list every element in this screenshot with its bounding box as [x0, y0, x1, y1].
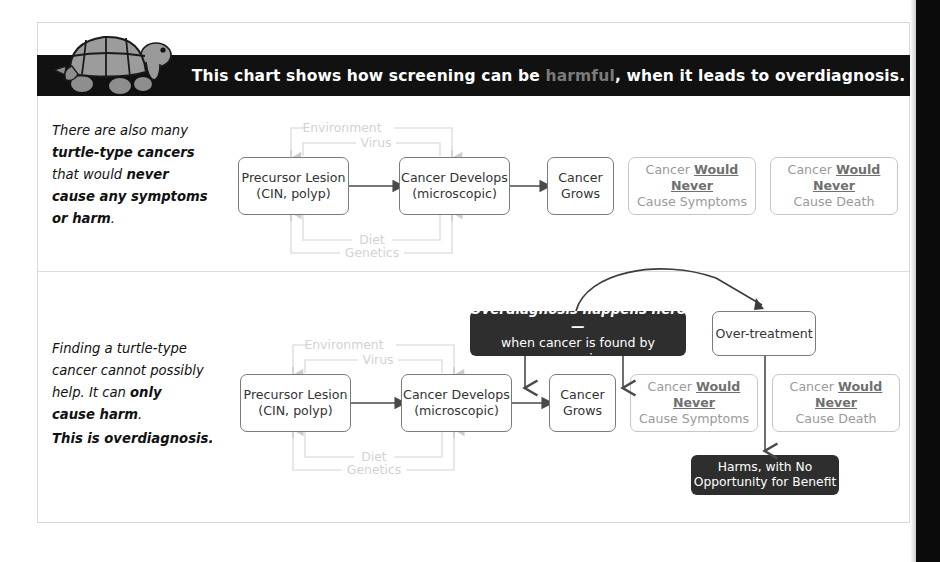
arrow-callout-to-over-treatment — [576, 269, 762, 311]
overdiagnosis-arrows-layer — [0, 0, 940, 562]
arrowhead-over-treatment — [754, 298, 764, 310]
